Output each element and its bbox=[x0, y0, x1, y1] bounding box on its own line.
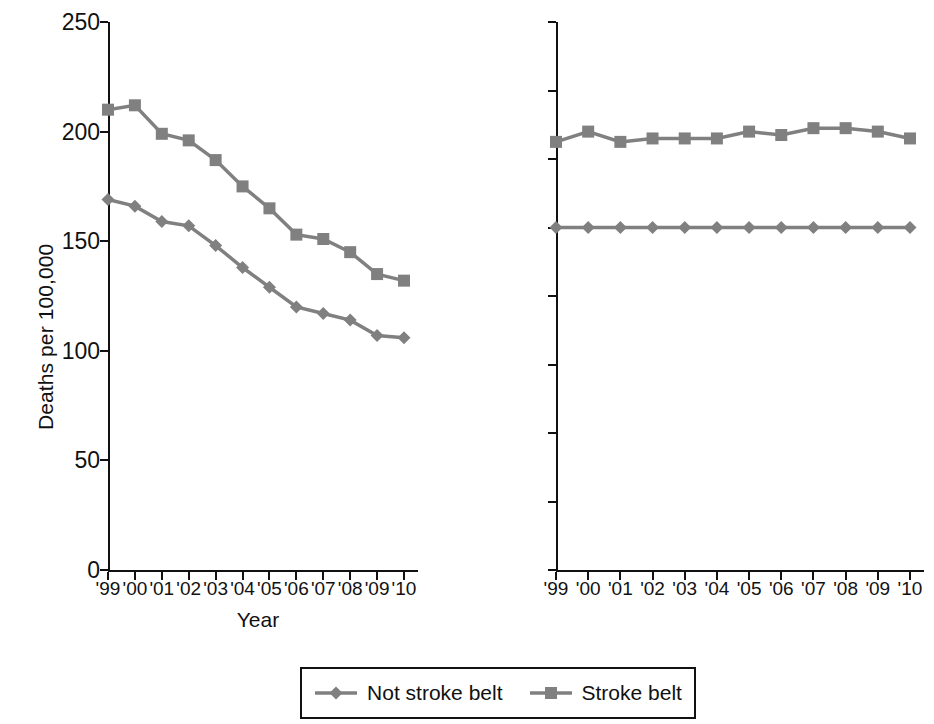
data-point-marker bbox=[678, 221, 691, 234]
data-point-marker bbox=[904, 221, 917, 234]
data-point-marker bbox=[646, 221, 659, 234]
data-point-marker bbox=[807, 122, 819, 134]
x-axis-label-left: Year bbox=[108, 608, 408, 632]
data-point-marker bbox=[582, 221, 595, 234]
data-point-marker bbox=[614, 221, 627, 234]
data-point-marker bbox=[398, 275, 410, 287]
data-point-marker bbox=[839, 221, 852, 234]
data-point-marker bbox=[614, 136, 626, 148]
data-point-marker bbox=[647, 132, 659, 144]
chart-panel-deaths: Deaths per 100,000 050100150200250 '99'0… bbox=[0, 0, 470, 660]
legend-item: Stroke belt bbox=[529, 681, 682, 705]
data-point-marker bbox=[183, 134, 195, 146]
chart-panel-ratio: Mortality ratio (not stroke belt referen… bbox=[470, 0, 934, 660]
legend-square-icon bbox=[529, 684, 573, 702]
data-point-marker bbox=[711, 132, 723, 144]
data-point-marker bbox=[545, 687, 557, 699]
legend-label: Not stroke belt bbox=[367, 681, 502, 705]
data-point-marker bbox=[743, 221, 756, 234]
legend-label: Stroke belt bbox=[582, 681, 682, 705]
data-point-marker bbox=[775, 129, 787, 141]
data-point-marker bbox=[840, 122, 852, 134]
data-point-marker bbox=[710, 221, 723, 234]
series-line bbox=[108, 105, 404, 280]
data-point-marker bbox=[102, 193, 115, 206]
data-point-marker bbox=[775, 221, 788, 234]
data-point-marker bbox=[679, 132, 691, 144]
data-point-marker bbox=[210, 154, 222, 166]
figure-container: Deaths per 100,000 050100150200250 '99'0… bbox=[0, 0, 934, 724]
data-point-marker bbox=[398, 331, 411, 344]
data-point-marker bbox=[371, 268, 383, 280]
data-point-marker bbox=[871, 221, 884, 234]
data-point-marker bbox=[904, 132, 916, 144]
chart-legend: Not stroke beltStroke belt bbox=[300, 667, 696, 719]
data-point-marker bbox=[550, 221, 563, 234]
series-layer bbox=[470, 0, 934, 640]
series-line bbox=[108, 200, 404, 338]
series-layer bbox=[0, 0, 470, 640]
data-point-marker bbox=[290, 229, 302, 241]
data-point-marker bbox=[102, 104, 114, 116]
legend-item: Not stroke belt bbox=[314, 681, 502, 705]
series-line bbox=[556, 128, 910, 142]
data-point-marker bbox=[743, 126, 755, 138]
data-point-marker bbox=[807, 221, 820, 234]
data-point-marker bbox=[317, 233, 329, 245]
data-point-marker bbox=[872, 126, 884, 138]
data-point-marker bbox=[317, 307, 330, 320]
data-point-marker bbox=[156, 128, 168, 140]
data-point-marker bbox=[263, 202, 275, 214]
data-point-marker bbox=[330, 687, 343, 700]
data-point-marker bbox=[344, 246, 356, 258]
data-point-marker bbox=[550, 136, 562, 148]
data-point-marker bbox=[129, 99, 141, 111]
data-point-marker bbox=[237, 180, 249, 192]
data-point-marker bbox=[582, 126, 594, 138]
legend-diamond-icon bbox=[314, 684, 358, 702]
